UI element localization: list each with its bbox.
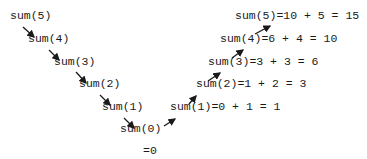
call-sum-5: sum(5) [10,10,51,22]
call-sum-3: sum(3) [54,56,95,68]
arrow-up-0-1 [164,119,175,126]
base-case-result: =0 [143,145,157,157]
call-sum-4: sum(4) [28,33,69,45]
call-sum-0: sum(0) [120,123,161,135]
return-sum-3: sum(3)=3 + 3 = 6 [208,56,318,68]
arrows-layer [0,0,367,159]
return-sum-1: sum(1)=0 + 1 = 1 [170,101,280,113]
return-sum-4: sum(4)=6 + 4 = 10 [220,33,337,45]
return-sum-2: sum(2)=1 + 2 = 3 [196,78,306,90]
call-sum-2: sum(2) [79,78,120,90]
return-sum-5: sum(5)=10 + 5 = 15 [235,10,359,22]
call-sum-1: sum(1) [102,101,143,113]
